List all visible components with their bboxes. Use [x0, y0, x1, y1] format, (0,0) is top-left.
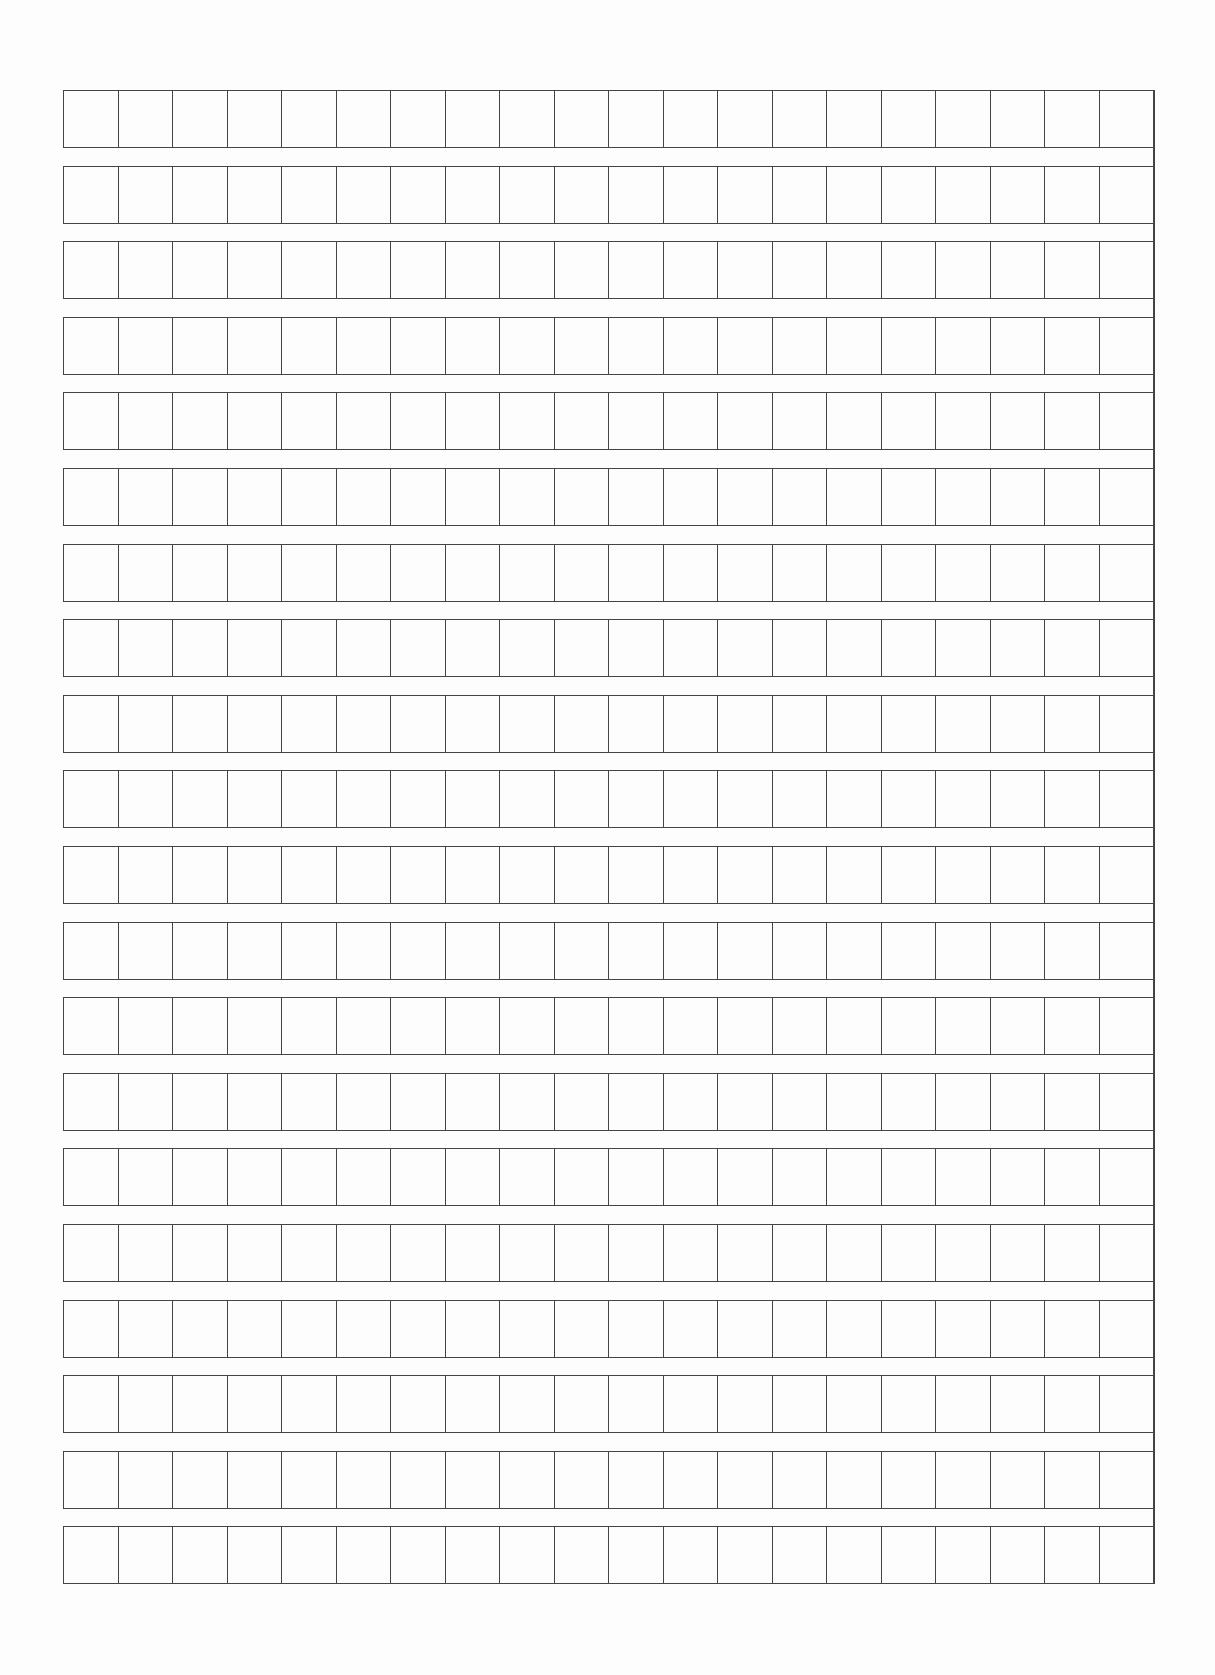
grid-cell — [64, 1225, 119, 1281]
grid-cell — [337, 847, 392, 903]
grid-cell — [337, 545, 392, 601]
grid-cell — [282, 1452, 337, 1508]
grid-cell — [228, 469, 283, 525]
grid-row — [63, 619, 1154, 677]
grid-cell — [228, 91, 283, 147]
grid-cell — [773, 620, 828, 676]
grid-cell — [718, 318, 773, 374]
grid-cell — [282, 545, 337, 601]
grid-cell — [500, 167, 555, 223]
grid-cell — [991, 393, 1046, 449]
grid-cell — [173, 1376, 228, 1432]
grid-cell — [1100, 696, 1155, 752]
grid-cell — [173, 1527, 228, 1583]
grid-cell — [446, 469, 501, 525]
grid-cell — [1045, 1376, 1100, 1432]
grid-cell — [555, 1527, 610, 1583]
grid-cell — [337, 771, 392, 827]
grid-cell — [173, 771, 228, 827]
grid-cell — [827, 923, 882, 979]
writing-grid — [63, 90, 1155, 1584]
grid-cell — [1100, 469, 1155, 525]
grid-cell — [827, 1452, 882, 1508]
grid-cell — [228, 318, 283, 374]
grid-row — [63, 468, 1154, 526]
grid-cell — [446, 167, 501, 223]
grid-cell — [555, 91, 610, 147]
grid-cell — [173, 1301, 228, 1357]
grid-cell — [228, 771, 283, 827]
grid-cell — [555, 469, 610, 525]
grid-cell — [337, 393, 392, 449]
grid-cell — [173, 318, 228, 374]
grid-cell — [282, 242, 337, 298]
grid-cell — [718, 242, 773, 298]
grid-cell — [446, 545, 501, 601]
grid-cell — [282, 696, 337, 752]
grid-cell — [119, 318, 174, 374]
grid-cell — [664, 1527, 719, 1583]
grid-cell — [500, 545, 555, 601]
grid-cell — [991, 91, 1046, 147]
grid-cell — [609, 1452, 664, 1508]
grid-cell — [391, 1149, 446, 1205]
grid-cell — [1045, 696, 1100, 752]
grid-cell — [991, 1225, 1046, 1281]
grid-cell — [773, 1149, 828, 1205]
grid-cell — [391, 1452, 446, 1508]
grid-cell — [500, 620, 555, 676]
grid-cell — [882, 91, 937, 147]
grid-cell — [391, 696, 446, 752]
grid-cell — [64, 847, 119, 903]
grid-cell — [609, 242, 664, 298]
grid-cell — [1045, 91, 1100, 147]
grid-cell — [337, 1225, 392, 1281]
grid-cell — [827, 545, 882, 601]
grid-cell — [500, 847, 555, 903]
grid-cell — [1045, 923, 1100, 979]
grid-cell — [500, 1452, 555, 1508]
grid-cell — [882, 1452, 937, 1508]
grid-cell — [282, 393, 337, 449]
grid-cell — [936, 1527, 991, 1583]
grid-cell — [555, 242, 610, 298]
grid-cell — [827, 847, 882, 903]
grid-cell — [282, 771, 337, 827]
grid-cell — [500, 923, 555, 979]
grid-cell — [773, 167, 828, 223]
grid-cell — [228, 1452, 283, 1508]
grid-cell — [991, 242, 1046, 298]
grid-cell — [1100, 998, 1155, 1054]
grid-cell — [446, 91, 501, 147]
grid-cell — [64, 1301, 119, 1357]
grid-cell — [119, 620, 174, 676]
grid-cell — [936, 393, 991, 449]
grid-cell — [664, 242, 719, 298]
grid-cell — [1100, 771, 1155, 827]
grid-cell — [827, 771, 882, 827]
grid-cell — [609, 1225, 664, 1281]
grid-cell — [991, 696, 1046, 752]
grid-cell — [936, 545, 991, 601]
grid-cell — [337, 167, 392, 223]
grid-cell — [991, 998, 1046, 1054]
grid-cell — [773, 1527, 828, 1583]
grid-cell — [1100, 1452, 1155, 1508]
grid-cell — [446, 1376, 501, 1432]
grid-cell — [64, 318, 119, 374]
grid-cell — [119, 1074, 174, 1130]
grid-row — [63, 695, 1154, 753]
grid-cell — [64, 620, 119, 676]
grid-cell — [391, 1301, 446, 1357]
grid-cell — [282, 1074, 337, 1130]
grid-cell — [1045, 1149, 1100, 1205]
grid-cell — [609, 998, 664, 1054]
grid-cell — [773, 1074, 828, 1130]
grid-cell — [173, 847, 228, 903]
grid-cell — [1045, 1225, 1100, 1281]
grid-cell — [446, 1225, 501, 1281]
grid-cell — [337, 469, 392, 525]
grid-cell — [555, 1301, 610, 1357]
grid-cell — [827, 1225, 882, 1281]
grid-cell — [882, 318, 937, 374]
